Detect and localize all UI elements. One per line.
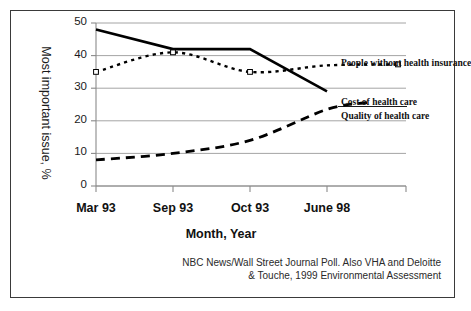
- source-note: NBC News/Wall Street Journal Poll. Also …: [151, 256, 441, 282]
- y-tick-label: 50: [55, 15, 87, 27]
- y-tick-label: 0: [55, 178, 87, 190]
- series-lines: [96, 30, 398, 160]
- y-tick-label: 30: [55, 80, 87, 92]
- x-axis-title: Month, Year: [161, 227, 281, 241]
- y-tick-marks: [91, 23, 96, 186]
- x-tick-marks: [96, 186, 406, 192]
- series-label-insurance: People without health insurance: [341, 58, 471, 68]
- series-label-quality: Quality of health care: [341, 111, 429, 121]
- chart-figure: Most important issue, % 01020304050 Mar …: [10, 10, 455, 298]
- series-label-cost: Cost of health care: [341, 97, 417, 107]
- y-tick-label: 20: [55, 113, 87, 125]
- y-tick-label: 10: [55, 145, 87, 157]
- source-note-line-1: NBC News/Wall Street Journal Poll. Also …: [151, 256, 441, 269]
- y-tick-label: 40: [55, 48, 87, 60]
- source-note-line-2: & Touche, 1999 Environmental Assessment: [151, 269, 441, 282]
- x-category-label: June 98: [282, 201, 372, 215]
